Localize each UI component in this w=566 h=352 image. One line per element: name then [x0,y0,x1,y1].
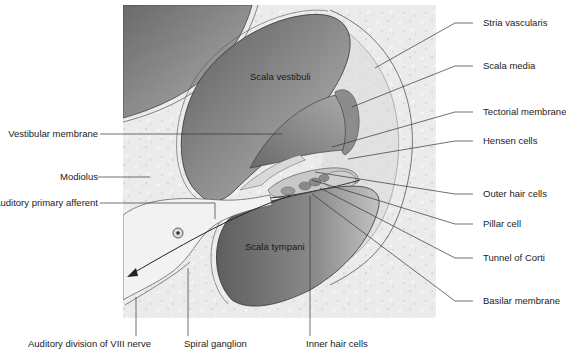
label-auditory-primary-afferent: Auditory primary afferent [0,197,98,208]
scala-vestibuli-label: Scala vestibuli [250,71,311,82]
label-vestibular-membrane: Vestibular membrane [8,128,98,139]
label-spiral-ganglion: Spiral ganglion [184,338,247,349]
label-tectorial-membrane: Tectorial membrane [483,106,566,117]
label-inner-hair-cells: Inner hair cells [306,338,368,349]
label-basilar-membrane: Basilar membrane [483,295,560,306]
scala-tympani-label: Scala tympani [245,241,305,252]
label-stria-vascularis: Stria vascularis [483,17,547,28]
label-scala-media: Scala media [483,60,535,71]
label-outer-hair-cells: Outer hair cells [483,188,547,199]
label-pillar-cell: Pillar cell [483,218,521,229]
label-tunnel-of-corti: Tunnel of Corti [483,252,545,263]
label-auditory-division-viii: Auditory division of VIII nerve [28,338,151,349]
label-hensen-cells: Hensen cells [483,135,537,146]
label-modiolus: Modiolus [60,171,98,182]
